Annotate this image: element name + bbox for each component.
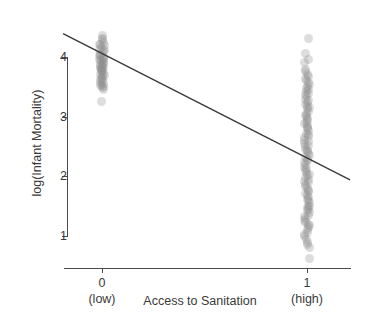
x-tick-group: 1(high) [267,276,347,308]
x-tick-mark [102,268,103,273]
x-tick-label: 1 [267,276,347,291]
x-tick-sublabel: (low) [62,291,142,308]
x-tick-mark [307,268,308,273]
x-tick-label: 0 [62,276,142,291]
regression-line [63,34,350,180]
x-tick-group: 0(low) [62,276,142,308]
x-tick-sublabel: (high) [267,291,347,308]
x-axis-title: Access to Sanitation [135,293,265,310]
scatter-plot-figure: 1234 log(Infant Mortality) 0(low)1(high)… [0,0,367,326]
